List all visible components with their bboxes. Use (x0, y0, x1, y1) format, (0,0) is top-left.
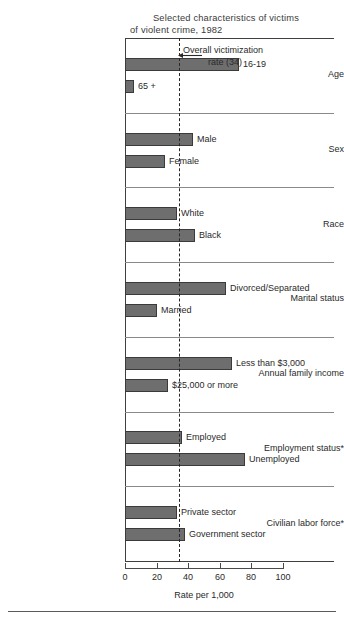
bar (125, 155, 165, 168)
bar-value-label: Black (199, 229, 221, 242)
x-axis-tick (251, 563, 252, 569)
group-separator (125, 187, 334, 188)
bar-value-label: Government sector (189, 528, 266, 541)
overall-rate-reference-line (179, 38, 180, 562)
chart-title-line-1: Selected characteristics of victims (118, 13, 334, 25)
bar (125, 80, 134, 93)
group-separator (125, 113, 334, 114)
bar-value-label: Female (169, 155, 199, 168)
bar-value-label: Unemployed (249, 453, 300, 466)
x-axis-tick (283, 563, 284, 569)
x-axis-title: Rate per 1,000 (125, 590, 283, 600)
x-axis-tick-label: 80 (246, 572, 256, 582)
category-label: Age (224, 69, 344, 79)
category-label: Civilian labor force* (224, 518, 344, 528)
category-label: Marital status (224, 293, 344, 303)
bar-value-label: $25,000 or more (172, 379, 238, 392)
bar-value-label: Married (161, 304, 192, 317)
bar (125, 379, 168, 392)
reference-line-annotation: Overall victimization rate (34) (183, 45, 333, 68)
x-axis-tick-label: 20 (152, 572, 162, 582)
x-axis-tick (188, 563, 189, 569)
annotation-line-2: rate (34) (183, 57, 333, 69)
category-label: Employment status* (224, 443, 344, 453)
footer-divider (8, 611, 336, 612)
bar-value-label: Employed (186, 431, 226, 444)
bar-value-label: Male (197, 133, 217, 146)
x-axis-tick-label: 0 (122, 572, 127, 582)
bar (125, 506, 177, 519)
group-separator (125, 337, 334, 338)
x-axis-tick-label: 60 (215, 572, 225, 582)
chart-title-line-2: of violent crime, 1982 (118, 25, 334, 37)
bar (125, 282, 226, 295)
bar-value-label: 65 + (138, 80, 156, 93)
x-axis-tick (220, 563, 221, 569)
bar (125, 207, 177, 220)
annotation-line-1: Overall victimization (183, 45, 263, 55)
x-axis-tick-label: 100 (275, 572, 290, 582)
category-label: Annual family income (224, 368, 344, 378)
bar (125, 528, 185, 541)
x-axis-tick-label: 40 (183, 572, 193, 582)
x-axis-line (125, 568, 283, 569)
group-separator (125, 486, 334, 487)
bar (125, 133, 193, 146)
group-separator (125, 262, 334, 263)
category-label: Race (224, 219, 344, 229)
x-axis-tick (125, 563, 126, 569)
bar-value-label: White (181, 207, 204, 220)
group-separator (125, 412, 334, 413)
bar (125, 229, 195, 242)
bar (125, 453, 245, 466)
x-axis-tick (157, 563, 158, 569)
bar (125, 431, 182, 444)
category-label: Sex (224, 144, 344, 154)
plot-frame-bottom-border (125, 561, 334, 562)
bar (125, 304, 157, 317)
chart-title: Selected characteristics of victims of v… (118, 13, 334, 36)
